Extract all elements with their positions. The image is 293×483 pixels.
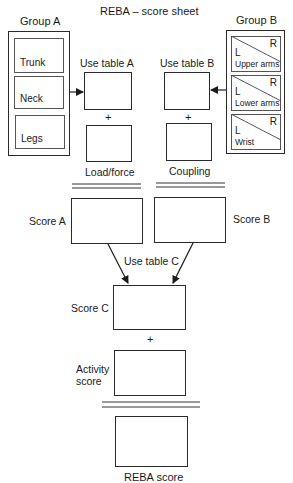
arrow-score-b-to-score-c bbox=[173, 243, 193, 283]
connector-lines bbox=[0, 0, 293, 483]
arrow-score-a-to-score-c bbox=[108, 244, 128, 283]
